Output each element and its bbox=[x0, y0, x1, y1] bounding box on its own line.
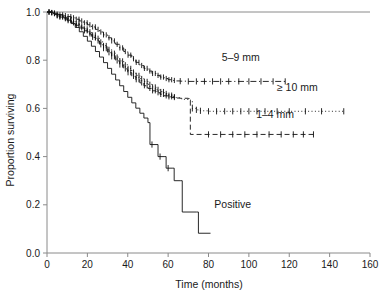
km-curve-5-9-mm bbox=[47, 12, 285, 81]
y-tick-label: 0.0 bbox=[26, 248, 40, 259]
axes-group: 0204060801001201401600.00.20.40.60.81.0 bbox=[26, 7, 379, 271]
y-axis-title: Proportion surviving bbox=[4, 93, 16, 186]
x-tick-label: 20 bbox=[82, 259, 94, 270]
x-tick-label: 60 bbox=[163, 259, 175, 270]
curve-label-5-9-mm: 5–9 mm bbox=[222, 51, 260, 63]
curve-labels-group: 5–9 mm≥ 10 mm1–4 mmPositive bbox=[214, 51, 318, 210]
curve-label-1-4-mm: 1–4 mm bbox=[256, 108, 294, 120]
x-tick-label: 40 bbox=[122, 259, 134, 270]
y-tick-label: 0.2 bbox=[26, 199, 40, 210]
y-tick-label: 0.8 bbox=[26, 55, 40, 66]
curve-label-positive: Positive bbox=[214, 198, 251, 210]
km-curve-positive bbox=[47, 12, 211, 233]
x-tick-label: 120 bbox=[281, 259, 298, 270]
curves-group bbox=[47, 12, 344, 233]
x-tick-label: 80 bbox=[203, 259, 215, 270]
x-axis-title: Time (months) bbox=[175, 278, 242, 290]
x-tick-label: 140 bbox=[321, 259, 338, 270]
x-tick-label: 100 bbox=[241, 259, 258, 270]
x-tick-label: 160 bbox=[362, 259, 379, 270]
chart-canvas: 0204060801001201401600.00.20.40.60.81.0 … bbox=[0, 0, 392, 297]
y-tick-label: 0.4 bbox=[26, 151, 40, 162]
y-tick-label: 1.0 bbox=[26, 7, 40, 18]
curve-label-10-mm: ≥ 10 mm bbox=[277, 81, 318, 93]
km-survival-chart: 0204060801001201401600.00.20.40.60.81.0 … bbox=[0, 0, 392, 297]
y-tick-label: 0.6 bbox=[26, 103, 40, 114]
x-tick-label: 0 bbox=[44, 259, 50, 270]
